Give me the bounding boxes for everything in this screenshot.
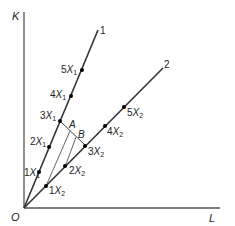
svg-text:4X2: 4X2 — [107, 126, 123, 138]
label-5x1: 5X1 — [61, 64, 77, 76]
svg-text:3X2: 3X2 — [88, 146, 104, 158]
point-5x1 — [80, 68, 84, 72]
marker-b: B — [78, 129, 85, 140]
point-5x2 — [122, 105, 126, 109]
svg-text:3X1: 3X1 — [40, 110, 56, 122]
process-rays-diagram: K L O 1 2 A B 1X1 2X1 3X1 4X1 5X1 1X2 2X… — [0, 0, 235, 226]
label-1x1: 1X1 — [24, 167, 40, 179]
point-1x2 — [44, 184, 48, 188]
label-5x2: 5X2 — [127, 107, 143, 119]
marker-a: A — [68, 119, 76, 130]
label-2x2: 2X2 — [69, 165, 85, 177]
svg-text:2X2: 2X2 — [69, 165, 85, 177]
svg-text:1X2: 1X2 — [49, 185, 65, 197]
label-4x1: 4X1 — [50, 89, 66, 101]
point-4x1 — [69, 94, 73, 98]
point-3x2 — [83, 144, 87, 148]
svg-text:5X1: 5X1 — [61, 64, 77, 76]
svg-text:1X1: 1X1 — [24, 167, 40, 179]
label-3x2: 3X2 — [88, 146, 104, 158]
point-3x1 — [58, 119, 62, 123]
ray-2-label: 2 — [164, 59, 170, 70]
svg-text:5X2: 5X2 — [127, 107, 143, 119]
origin-label: O — [11, 211, 20, 223]
label-2x1: 2X1 — [30, 136, 46, 148]
ray-1-label: 1 — [100, 25, 106, 36]
l-axis-label: L — [209, 212, 215, 224]
point-2x2 — [63, 164, 67, 168]
ray-1 — [24, 30, 98, 208]
svg-text:2X1: 2X1 — [30, 136, 46, 148]
label-3x1: 3X1 — [40, 110, 56, 122]
point-2x1 — [47, 145, 51, 149]
label-4x2: 4X2 — [107, 126, 123, 138]
line-2x2-b — [65, 137, 76, 167]
svg-text:4X1: 4X1 — [50, 89, 66, 101]
line-1x2-a — [46, 131, 70, 186]
label-1x2: 1X2 — [49, 185, 65, 197]
k-axis-label: K — [12, 10, 20, 22]
